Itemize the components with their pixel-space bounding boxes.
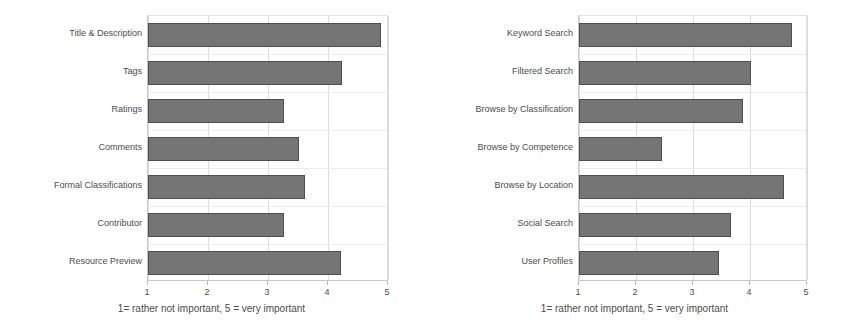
x-tick-label: 5 bbox=[377, 287, 397, 297]
y-gridline bbox=[148, 130, 387, 131]
category-label: Comments bbox=[5, 142, 142, 153]
bar bbox=[148, 213, 284, 237]
x-tick-mark bbox=[267, 281, 268, 285]
bar bbox=[579, 175, 784, 199]
bar bbox=[579, 137, 662, 161]
bar bbox=[579, 251, 719, 275]
x-tick-label: 5 bbox=[796, 287, 816, 297]
y-gridline bbox=[579, 244, 806, 245]
x-gridline bbox=[388, 16, 389, 280]
category-label: Formal Classifications bbox=[5, 180, 142, 191]
y-gridline bbox=[579, 130, 806, 131]
x-tick-mark bbox=[578, 281, 579, 285]
x-tick-mark bbox=[327, 281, 328, 285]
category-label: Title & Description bbox=[5, 28, 142, 39]
category-label: Browse by Location bbox=[428, 180, 573, 191]
plot-area-right bbox=[578, 15, 807, 281]
category-label: Resource Preview bbox=[5, 256, 142, 267]
plot-frame bbox=[147, 15, 388, 281]
bar bbox=[148, 99, 284, 123]
bar-chart-search-features: 1= rather not important, 5 = very import… bbox=[423, 0, 846, 336]
x-tick-mark bbox=[749, 281, 750, 285]
category-label: Browse by Competence bbox=[428, 142, 573, 153]
plot-frame bbox=[578, 15, 807, 281]
bar bbox=[579, 23, 792, 47]
bar-chart-metadata-features: 1= rather not important, 5 = very import… bbox=[0, 0, 423, 336]
x-tick-mark bbox=[207, 281, 208, 285]
bar bbox=[579, 61, 751, 85]
category-label: Ratings bbox=[5, 104, 142, 115]
category-label: Tags bbox=[5, 66, 142, 77]
category-label: Filtered Search bbox=[428, 66, 573, 77]
bar bbox=[148, 61, 342, 85]
x-gridline bbox=[750, 16, 751, 280]
x-tick-mark bbox=[635, 281, 636, 285]
y-gridline bbox=[148, 54, 387, 55]
y-gridline bbox=[579, 92, 806, 93]
x-gridline bbox=[328, 16, 329, 280]
x-tick-mark bbox=[692, 281, 693, 285]
x-tick-label: 4 bbox=[317, 287, 337, 297]
bar bbox=[148, 251, 341, 275]
figure-canvas: 1= rather not important, 5 = very import… bbox=[0, 0, 846, 336]
bar bbox=[579, 99, 743, 123]
x-tick-mark bbox=[387, 281, 388, 285]
bar bbox=[148, 175, 305, 199]
y-gridline bbox=[148, 244, 387, 245]
y-gridline bbox=[148, 92, 387, 93]
x-axis-caption-left: 1= rather not important, 5 = very import… bbox=[0, 303, 423, 315]
x-tick-label: 1 bbox=[568, 287, 588, 297]
x-gridline bbox=[807, 16, 808, 280]
category-label: Contributor bbox=[5, 218, 142, 229]
bar bbox=[579, 213, 731, 237]
category-label: Browse by Classification bbox=[428, 104, 573, 115]
x-tick-mark bbox=[806, 281, 807, 285]
y-gridline bbox=[579, 168, 806, 169]
bar bbox=[148, 23, 381, 47]
y-gridline bbox=[148, 206, 387, 207]
bar bbox=[148, 137, 299, 161]
y-gridline bbox=[148, 168, 387, 169]
category-label: Keyword Search bbox=[428, 28, 573, 39]
y-gridline bbox=[579, 206, 806, 207]
x-axis-caption-right: 1= rather not important, 5 = very import… bbox=[423, 303, 846, 315]
x-tick-label: 1 bbox=[137, 287, 157, 297]
x-tick-label: 2 bbox=[625, 287, 645, 297]
plot-area-left bbox=[147, 15, 388, 281]
category-label: Social Search bbox=[428, 218, 573, 229]
x-tick-mark bbox=[147, 281, 148, 285]
category-label: User Profiles bbox=[428, 256, 573, 267]
x-tick-label: 3 bbox=[257, 287, 277, 297]
x-tick-label: 4 bbox=[739, 287, 759, 297]
x-gridline bbox=[693, 16, 694, 280]
x-tick-label: 2 bbox=[197, 287, 217, 297]
x-tick-label: 3 bbox=[682, 287, 702, 297]
y-gridline bbox=[579, 54, 806, 55]
